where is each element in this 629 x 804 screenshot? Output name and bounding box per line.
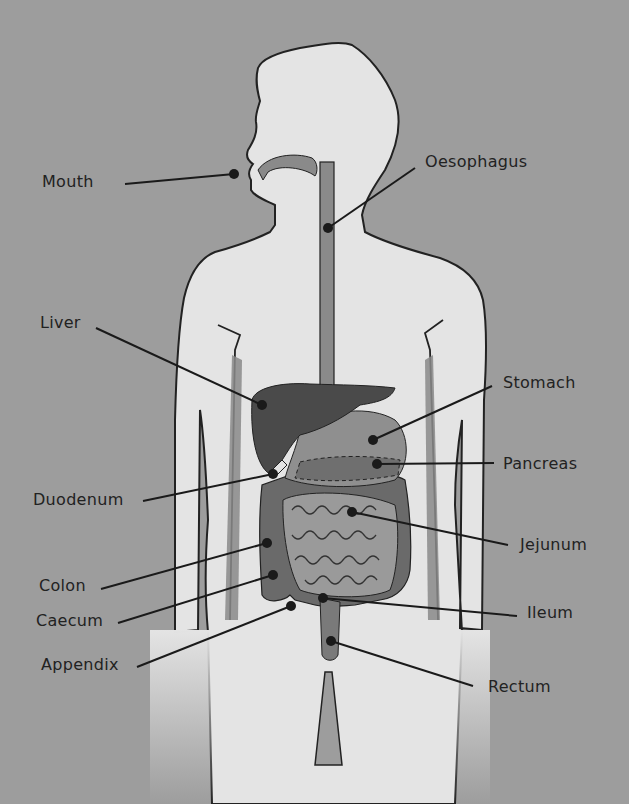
pointer-dot-rectum [326,636,336,646]
label-mouth: Mouth [42,172,94,191]
label-colon: Colon [39,576,86,595]
pointer-dot-appendix [286,601,296,611]
leader-line-mouth [125,174,234,184]
pointer-dot-ileum [318,593,328,603]
label-caecum: Caecum [36,611,103,630]
label-oesophagus: Oesophagus [425,152,527,171]
pointer-dot-caecum [268,570,278,580]
pointer-dot-duodenum [268,469,278,479]
pointer-dot-liver [257,400,267,410]
label-stomach: Stomach [503,373,576,392]
label-ileum: Ileum [527,603,573,622]
pointer-dot-pancreas [372,459,382,469]
pointer-dot-mouth [229,169,239,179]
label-appendix: Appendix [41,655,119,674]
small-intestine [283,493,398,597]
label-duodenum: Duodenum [33,490,124,509]
label-rectum: Rectum [488,677,551,696]
pointer-dot-jejunum [347,507,357,517]
digestive-system-diagram: Mouth Oesophagus Liver Stomach Pancreas … [0,0,629,804]
pointer-dot-oesophagus [323,223,333,233]
pointer-dot-colon [262,538,272,548]
label-pancreas: Pancreas [503,454,577,473]
label-jejunum: Jejunum [520,535,587,554]
label-liver: Liver [40,313,81,332]
pointer-dot-stomach [368,435,378,445]
leader-line-pancreas [377,463,494,464]
